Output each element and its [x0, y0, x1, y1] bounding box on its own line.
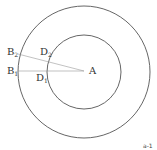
figure-footnote: a-1 [143, 142, 153, 149]
label-b1: B1 [7, 66, 18, 77]
label-a: A [89, 66, 96, 76]
inner-circle [47, 35, 121, 109]
label-d2: D2 [40, 47, 52, 58]
diagram-canvas [0, 0, 157, 150]
label-d1: D1 [36, 73, 48, 84]
label-b2: B2 [7, 47, 18, 58]
